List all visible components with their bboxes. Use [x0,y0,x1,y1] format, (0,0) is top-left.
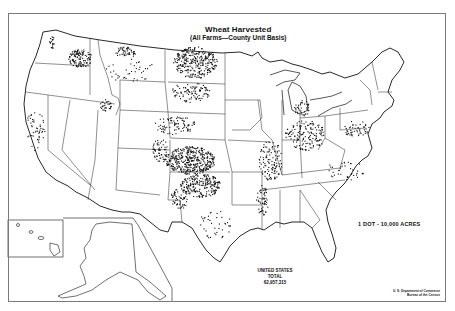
map-title: Wheat Harvested [190,25,286,34]
credit-line2: Bureau of the Census [382,294,440,298]
map-subtitle: (All Farms—County Unit Basis) [190,34,286,41]
map-frame [8,13,446,302]
title-block: Wheat Harvested (All Farms—County Unit B… [190,25,286,41]
total-value: 62,957,315 [250,280,300,286]
us-total-block: UNITED STATES TOTAL 62,957,315 [250,268,300,286]
dot-legend: 1 DOT - 10,000 ACRES [358,221,420,227]
source-credit: U. S. Department of Commerce Bureau of t… [382,290,440,298]
